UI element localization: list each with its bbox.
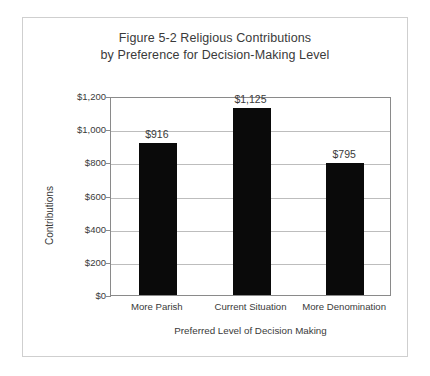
bar[interactable] [139, 143, 177, 295]
bar[interactable] [326, 163, 364, 295]
y-axis-tick-label: $200 [48, 258, 106, 268]
y-axis-tick-labels: $0$200$400$600$800$1,000$1,200 [44, 97, 106, 296]
bar-value-label: $795 [304, 149, 384, 160]
plot-area [110, 97, 391, 296]
chart-title-line-1: Figure 5-2 Religious Contributions [22, 30, 408, 47]
y-axis-tick-label: $1,200 [48, 92, 106, 102]
y-axis-tick-label: $400 [48, 225, 106, 235]
y-axis-tick-label: $1,000 [48, 125, 106, 135]
y-axis-tick-mark [106, 296, 111, 297]
chart-title-line-2: by Preference for Decision-Making Level [22, 47, 408, 64]
y-axis-tick-label: $0 [48, 291, 106, 301]
bar-value-label: $916 [117, 129, 197, 140]
figure-root: Figure 5-2 Religious Contributions by Pr… [0, 0, 430, 376]
y-axis-tick-label: $800 [48, 158, 106, 168]
x-axis-title: Preferred Level of Decision Making [110, 325, 391, 336]
x-axis-category-label: More Denomination [289, 301, 399, 312]
y-axis-tick-label: $600 [48, 192, 106, 202]
bar[interactable] [233, 108, 271, 295]
chart-title: Figure 5-2 Religious Contributions by Pr… [22, 30, 408, 64]
bar-value-label: $1,125 [211, 94, 291, 105]
